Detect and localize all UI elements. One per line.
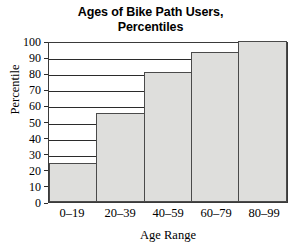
chart-title-line-1: Ages of Bike Path Users, [0, 5, 301, 20]
x-axis-tick-label: 0–19 [48, 206, 96, 221]
y-axis-tick-label: 100 [23, 36, 44, 48]
bar-40-59 [144, 72, 193, 202]
bar-60-79 [191, 52, 240, 202]
x-axis-tick-label: 60–79 [192, 206, 240, 221]
y-axis-tick-label: 40 [29, 133, 44, 145]
chart-title-line-2: Percentiles [0, 20, 301, 35]
y-axis-tick-label: 10 [29, 181, 44, 193]
bar-80-99 [238, 41, 287, 202]
x-axis-title: Age Range [48, 228, 288, 243]
x-axis-tick-label: 40–59 [144, 206, 192, 221]
y-axis-tick-label: 0 [35, 197, 44, 209]
y-axis-tick-label: 90 [29, 52, 44, 64]
x-axis-tick-label: 20–39 [96, 206, 144, 221]
x-axis-tick-label: 80–99 [240, 206, 288, 221]
bar-20-39 [96, 113, 145, 202]
x-axis-tick-labels: 0–1920–3940–5960–7980–99 [48, 206, 288, 221]
y-axis-tick-label: 50 [29, 117, 44, 129]
chart-title: Ages of Bike Path Users, Percentiles [0, 5, 301, 35]
y-axis-tick-label: 20 [29, 165, 44, 177]
y-axis-tick-label: 30 [29, 149, 44, 161]
y-axis-tick-label: 70 [29, 84, 44, 96]
bar-series [49, 43, 287, 202]
plot-area [48, 42, 288, 203]
y-axis-tick-label: 80 [29, 68, 44, 80]
y-axis-title: Percentile [8, 40, 23, 140]
y-axis-tick-label: 60 [29, 100, 44, 112]
bar-0-19 [49, 163, 98, 202]
